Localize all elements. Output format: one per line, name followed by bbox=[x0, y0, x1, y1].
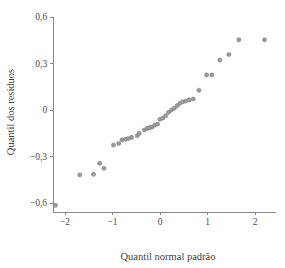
y-tick-label: 0,6 bbox=[35, 12, 47, 22]
scatter-plot-svg: −2−1012 −0,6−0,300,30,6 Quantil normal p… bbox=[0, 0, 285, 268]
data-point bbox=[237, 38, 241, 42]
data-point bbox=[262, 38, 266, 42]
data-point bbox=[102, 166, 106, 170]
data-point bbox=[53, 203, 57, 207]
data-point bbox=[156, 122, 160, 126]
x-tick-label: 1 bbox=[205, 217, 210, 227]
qq-plot-figure: −2−1012 −0,6−0,300,30,6 Quantil normal p… bbox=[0, 0, 285, 268]
data-point bbox=[137, 131, 141, 135]
x-tick-label: −2 bbox=[60, 217, 70, 227]
x-tick-label: 2 bbox=[253, 217, 258, 227]
data-point bbox=[91, 172, 95, 176]
y-axis-title: Quantil dos resíduos bbox=[5, 69, 16, 155]
data-point bbox=[197, 88, 201, 92]
y-tick-label: 0 bbox=[42, 105, 47, 115]
data-point bbox=[129, 135, 133, 139]
axes-group: −2−1012 −0,6−0,300,30,6 bbox=[30, 12, 277, 227]
x-axis-title: Quantil normal padrão bbox=[120, 251, 215, 262]
data-point bbox=[218, 58, 222, 62]
data-point bbox=[164, 114, 168, 118]
x-axis-ticks: −2−1012 bbox=[60, 212, 258, 227]
data-point bbox=[98, 161, 102, 165]
data-points-group bbox=[53, 38, 266, 208]
x-tick-label: −1 bbox=[107, 217, 117, 227]
data-point bbox=[227, 52, 231, 56]
data-point bbox=[117, 141, 121, 145]
y-tick-label: −0,6 bbox=[30, 198, 47, 208]
data-point bbox=[210, 73, 214, 77]
data-point bbox=[187, 98, 191, 102]
data-point bbox=[111, 143, 115, 147]
data-point bbox=[191, 97, 195, 101]
y-tick-label: 0,3 bbox=[35, 59, 47, 69]
y-axis-ticks: −0,6−0,300,30,6 bbox=[30, 12, 53, 208]
x-tick-label: 0 bbox=[158, 217, 163, 227]
data-point bbox=[78, 173, 82, 177]
data-point bbox=[204, 73, 208, 77]
y-tick-label: −0,3 bbox=[30, 152, 47, 162]
